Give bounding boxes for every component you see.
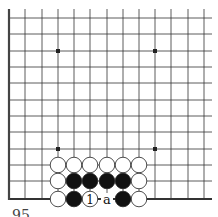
move-number: 1 [86,193,94,207]
black-stone [66,173,82,189]
white-stone [131,191,147,207]
white-stone [82,157,98,173]
black-stone [66,191,82,207]
white-stone [50,191,66,207]
black-stone [99,173,115,189]
white-stone [131,173,147,189]
star-point [56,49,60,53]
black-stone [115,173,131,189]
star-point [153,49,157,53]
star-point [153,147,157,151]
figure-caption: 95 [12,208,30,217]
go-board: 1a [0,0,218,217]
white-stone [115,157,131,173]
black-stone [115,191,131,207]
white-stone [99,157,115,173]
white-stone [131,157,147,173]
point-label: a [103,192,111,207]
black-stone [82,173,98,189]
white-stone [66,157,82,173]
white-stone [50,173,66,189]
white-stone [50,157,66,173]
star-point [56,147,60,151]
